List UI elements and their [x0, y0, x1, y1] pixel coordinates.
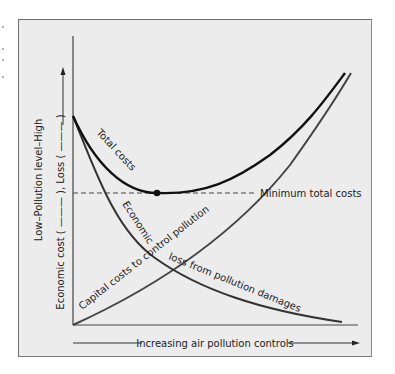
y-axis-inner-label: Economic cost ( ——— ), Loss ( ——— ) — [55, 114, 66, 309]
capital-costs-curve — [73, 73, 351, 325]
page-edge-marks — [2, 26, 4, 78]
minimum-total-costs-label: Minimum total costs — [260, 188, 362, 199]
loss-from-pollution-label: loss from pollution damages — [167, 251, 303, 314]
economic-label: Economic — [120, 199, 156, 246]
x-axis-label: Increasing air pollution controls — [136, 338, 294, 349]
total-costs-curve — [73, 73, 345, 193]
pollution-cost-diagram: Total costs Economic loss from pollution… — [0, 0, 395, 374]
minimum-point-marker — [154, 190, 161, 197]
y-axis-outer-label: Low–Pollution level–High — [33, 119, 44, 241]
total-costs-label: Total costs — [94, 126, 139, 173]
